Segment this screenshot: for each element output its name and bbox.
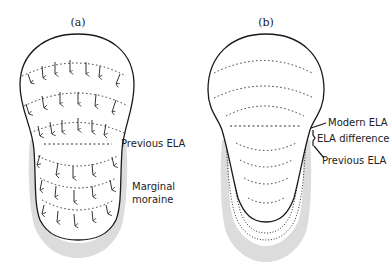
ela-difference-label: ELA difference <box>317 133 389 144</box>
glacier-ela-diagram: (a) <box>0 0 390 268</box>
previous-ela-label-a: Previous ELA <box>121 138 186 149</box>
modern-ela-label: Modern ELA <box>328 117 388 128</box>
marginal-moraine-label-line2: moraine <box>132 194 173 205</box>
panel-b: (b) Modern ELA ELA difference Pr <box>208 16 389 262</box>
panel-a: (a) <box>20 16 186 258</box>
previous-ela-label-b: Previous ELA <box>322 155 387 166</box>
glacier-outline-a <box>20 34 134 240</box>
panel-b-label: (b) <box>258 16 274 29</box>
marginal-moraine-label-line1: Marginal <box>132 181 175 192</box>
panel-a-label: (a) <box>70 16 85 29</box>
